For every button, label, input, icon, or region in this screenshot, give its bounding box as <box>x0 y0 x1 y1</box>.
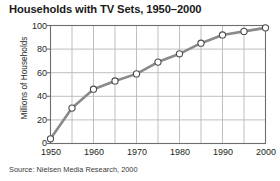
source-note: Source: Nielsen Media Research, 2000 <box>9 165 138 174</box>
grid-lines <box>51 26 266 144</box>
plot-area <box>0 0 280 181</box>
chart-figure: Households with TV Sets, 1950–2000 Milli… <box>0 0 280 181</box>
